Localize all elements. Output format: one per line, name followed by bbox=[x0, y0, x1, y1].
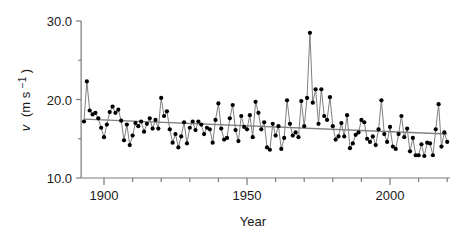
data-point-marker bbox=[271, 122, 275, 126]
data-point-marker bbox=[428, 141, 432, 145]
data-point-marker bbox=[437, 102, 441, 106]
data-point-marker bbox=[408, 149, 412, 153]
chart-canvas: 190019502000 10.020.030.0 Year v (m s −1… bbox=[0, 0, 460, 233]
data-point-marker bbox=[396, 132, 400, 136]
data-point-marker bbox=[93, 111, 97, 115]
y-axis-tick-labels: 10.020.030.0 bbox=[47, 14, 72, 186]
data-point-marker bbox=[371, 134, 375, 138]
data-point-marker bbox=[202, 132, 206, 136]
y-tick-label-2: 30.0 bbox=[47, 14, 72, 29]
data-point-marker bbox=[434, 127, 438, 131]
data-point-marker bbox=[216, 101, 220, 105]
data-point-marker bbox=[276, 124, 280, 128]
data-point-marker bbox=[159, 96, 163, 100]
data-point-marker bbox=[268, 148, 272, 152]
data-point-marker bbox=[419, 142, 423, 146]
data-point-marker bbox=[291, 134, 295, 138]
data-point-marker bbox=[365, 137, 369, 141]
data-point-marker bbox=[96, 116, 100, 120]
data-point-marker bbox=[328, 95, 332, 99]
data-point-marker bbox=[151, 126, 155, 130]
data-point-marker bbox=[145, 122, 149, 126]
data-point-marker bbox=[302, 124, 306, 128]
data-point-marker bbox=[148, 116, 152, 120]
data-point-marker bbox=[331, 124, 335, 128]
data-point-marker bbox=[339, 121, 343, 125]
data-point-marker bbox=[85, 79, 89, 83]
data-point-marker bbox=[262, 120, 266, 124]
data-point-marker bbox=[133, 121, 137, 125]
data-point-marker bbox=[285, 98, 289, 102]
y-tick-label-0: 10.0 bbox=[47, 171, 72, 186]
data-point-marker bbox=[319, 87, 323, 91]
data-point-marker bbox=[225, 136, 229, 140]
data-point-marker bbox=[311, 101, 315, 105]
data-point-marker bbox=[274, 134, 278, 138]
data-point-marker bbox=[165, 109, 169, 113]
data-point-marker bbox=[188, 126, 192, 130]
x-tick-label-1: 1950 bbox=[233, 188, 262, 203]
data-point-marker bbox=[294, 130, 298, 134]
data-point-marker bbox=[422, 154, 426, 158]
data-point-marker bbox=[325, 118, 329, 122]
data-series-line bbox=[84, 33, 447, 156]
data-point-marker bbox=[379, 98, 383, 102]
data-point-marker bbox=[316, 122, 320, 126]
axes-group bbox=[76, 21, 450, 185]
data-point-marker bbox=[219, 126, 223, 130]
data-point-marker bbox=[142, 130, 146, 134]
data-point-marker bbox=[185, 141, 189, 145]
data-point-marker bbox=[388, 125, 392, 129]
y-axis-exponent: −1 bbox=[17, 76, 28, 88]
data-point-marker bbox=[362, 120, 366, 124]
y-tick-label-1: 20.0 bbox=[47, 93, 72, 108]
data-point-marker bbox=[356, 130, 360, 134]
data-point-marker bbox=[173, 132, 177, 136]
data-point-marker bbox=[88, 108, 92, 112]
data-point-marker bbox=[108, 110, 112, 114]
data-point-marker bbox=[153, 118, 157, 122]
data-point-marker bbox=[314, 87, 318, 91]
data-point-marker bbox=[439, 145, 443, 149]
y-axis-units: (m s bbox=[18, 91, 33, 117]
x-tick-label-2: 2000 bbox=[376, 188, 405, 203]
data-point-marker bbox=[208, 127, 212, 131]
data-point-marker bbox=[308, 31, 312, 35]
x-axis-tick-labels: 190019502000 bbox=[90, 188, 405, 203]
data-point-marker bbox=[305, 96, 309, 100]
x-axis-title: Year bbox=[240, 214, 267, 229]
y-axis-title-text: v (m s −1 ) bbox=[14, 69, 33, 131]
data-point-marker bbox=[376, 127, 380, 131]
x-tick-label-0: 1900 bbox=[90, 188, 119, 203]
data-point-marker bbox=[211, 141, 215, 145]
data-point-marker bbox=[168, 127, 172, 131]
data-point-marker bbox=[105, 123, 109, 127]
data-point-marker bbox=[253, 100, 257, 104]
data-point-marker bbox=[279, 147, 283, 151]
data-point-marker bbox=[368, 140, 372, 144]
data-point-marker bbox=[345, 113, 349, 117]
data-point-marker bbox=[119, 119, 123, 123]
data-point-marker bbox=[239, 114, 243, 118]
data-point-marker bbox=[213, 118, 217, 122]
data-point-marker bbox=[405, 126, 409, 130]
data-point-marker bbox=[245, 127, 249, 131]
data-point-marker bbox=[334, 137, 338, 141]
wind-speed-time-series-figure: 190019502000 10.020.030.0 Year v (m s −1… bbox=[0, 0, 460, 233]
data-point-marker bbox=[442, 130, 446, 134]
data-point-marker bbox=[259, 127, 263, 131]
data-point-marker bbox=[336, 134, 340, 138]
data-point-marker bbox=[139, 119, 143, 123]
data-point-marker bbox=[231, 103, 235, 107]
data-point-marker bbox=[122, 138, 126, 142]
data-point-marker bbox=[116, 108, 120, 112]
data-point-marker bbox=[342, 134, 346, 138]
data-point-marker bbox=[162, 114, 166, 118]
y-axis-title: v (m s −1 ) bbox=[14, 69, 33, 131]
data-point-marker bbox=[322, 114, 326, 118]
data-point-marker bbox=[351, 141, 355, 145]
data-point-marker bbox=[417, 153, 421, 157]
data-point-marker bbox=[431, 153, 435, 157]
data-point-marker bbox=[411, 136, 415, 140]
data-point-marker bbox=[82, 119, 86, 123]
